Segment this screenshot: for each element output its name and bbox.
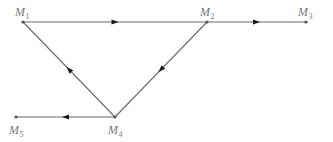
- node-label-base: M: [107, 123, 119, 137]
- node-label-subscript: 1: [26, 12, 30, 21]
- node-label-base: M: [199, 5, 211, 19]
- edges-layer: [16, 19, 306, 119]
- arrowhead-icon: [62, 114, 69, 119]
- node-m3: [304, 20, 307, 23]
- node-label-m3: M3: [297, 5, 313, 21]
- labels-layer: M1M2M3M4M5: [8, 5, 313, 139]
- node-m2: [205, 20, 208, 23]
- arrowhead-icon: [112, 19, 119, 24]
- node-label-subscript: 3: [309, 12, 313, 21]
- node-label-m1: M1: [14, 5, 30, 21]
- node-label-subscript: 4: [119, 130, 123, 139]
- node-m5: [14, 115, 17, 118]
- node-label-base: M: [297, 5, 309, 19]
- node-label-m5: M5: [8, 123, 24, 139]
- node-label-base: M: [14, 5, 26, 19]
- arrowhead-icon: [253, 19, 260, 24]
- node-label-subscript: 2: [211, 12, 215, 21]
- node-label-m4: M4: [107, 123, 123, 139]
- node-label-base: M: [8, 123, 20, 137]
- node-label-subscript: 5: [20, 130, 24, 139]
- node-m1: [21, 20, 24, 23]
- node-label-m2: M2: [199, 5, 215, 21]
- node-m4: [113, 115, 116, 118]
- directed-graph: M1M2M3M4M5: [0, 0, 333, 142]
